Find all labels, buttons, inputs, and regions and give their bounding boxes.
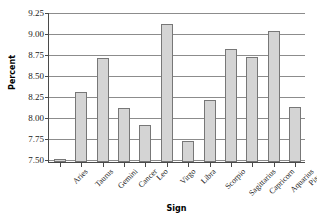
bar-aries xyxy=(54,159,66,162)
bar-chart-figure: Percent 7.507.758.008.258.508.759.009.25… xyxy=(0,0,317,222)
y-tick-label: 9.00 xyxy=(28,29,44,39)
x-tick-label-leo: Leo xyxy=(155,167,170,182)
bar-virgo xyxy=(161,24,173,162)
bar-scorpio xyxy=(204,100,216,162)
x-tick-label-libra: Libra xyxy=(199,167,218,186)
y-axis-tick-labels: 7.507.758.008.258.508.759.009.25 xyxy=(0,0,48,222)
bar-cancer xyxy=(118,108,130,162)
x-tick-label-cancer: Cancer xyxy=(137,167,159,189)
bar-libra xyxy=(182,141,194,162)
bar-leo xyxy=(139,125,151,162)
x-tick-label-taurus: Taurus xyxy=(93,167,115,189)
y-tick-label: 8.75 xyxy=(28,50,44,60)
bar-pisces xyxy=(289,107,301,162)
x-tick-label-aries: Aries xyxy=(71,167,90,186)
bar-sagittarius xyxy=(225,49,237,162)
y-tick-label: 7.50 xyxy=(28,155,44,165)
y-tick-label: 9.25 xyxy=(28,8,44,18)
x-axis-tick-labels: AriesTaurusGeminiCancerLeoVirgoLibraScor… xyxy=(48,163,305,209)
y-tick-label: 8.00 xyxy=(28,113,44,123)
bar-gemini xyxy=(97,58,109,162)
bar-taurus xyxy=(75,92,87,162)
x-tick-label-virgo: Virgo xyxy=(178,167,197,186)
y-tick-label: 8.50 xyxy=(28,71,44,81)
bar-series xyxy=(49,13,305,162)
bar-aquarius xyxy=(268,31,280,162)
bar-capricorn xyxy=(246,57,258,162)
x-tick-label-scorpio: Scorpio xyxy=(223,167,247,191)
x-tick-label-gemini: Gemini xyxy=(116,167,139,190)
plot-area xyxy=(48,13,305,163)
y-tick-label: 8.25 xyxy=(28,92,44,102)
x-axis-title: Sign xyxy=(48,204,305,213)
y-tick-label: 7.75 xyxy=(28,134,44,144)
